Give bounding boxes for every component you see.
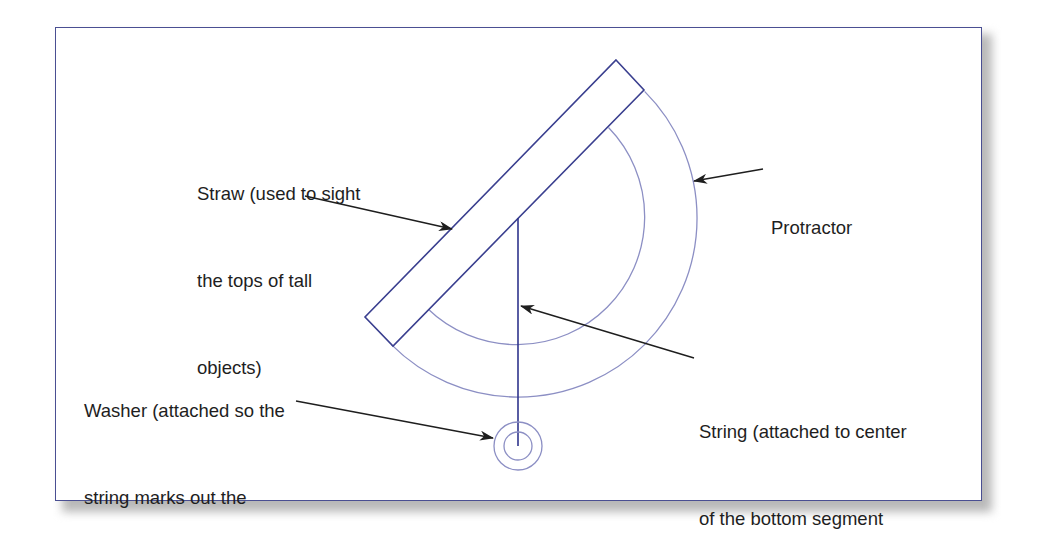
protractor-arrow: [694, 169, 763, 181]
protractor-label-line: Protractor: [771, 213, 852, 242]
string-arrow: [521, 306, 694, 358]
string-label: String (attached to center of the bottom…: [699, 359, 907, 533]
washer-label-line: string marks out the: [84, 483, 285, 512]
string-label-line: String (attached to center: [699, 417, 907, 446]
washer-label: Washer (attached so the string marks out…: [84, 338, 285, 533]
washer-label-line: Washer (attached so the: [84, 396, 285, 425]
straw-label-line: the tops of tall: [197, 266, 361, 295]
straw-label-line: Straw (used to sight: [197, 179, 361, 208]
string-label-line: of the bottom segment: [699, 504, 907, 533]
protractor-label: Protractor: [771, 155, 852, 271]
straw: [365, 60, 644, 346]
